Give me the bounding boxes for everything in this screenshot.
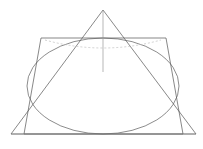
figure-canvas bbox=[0, 0, 203, 149]
geometry-figure bbox=[0, 0, 203, 149]
